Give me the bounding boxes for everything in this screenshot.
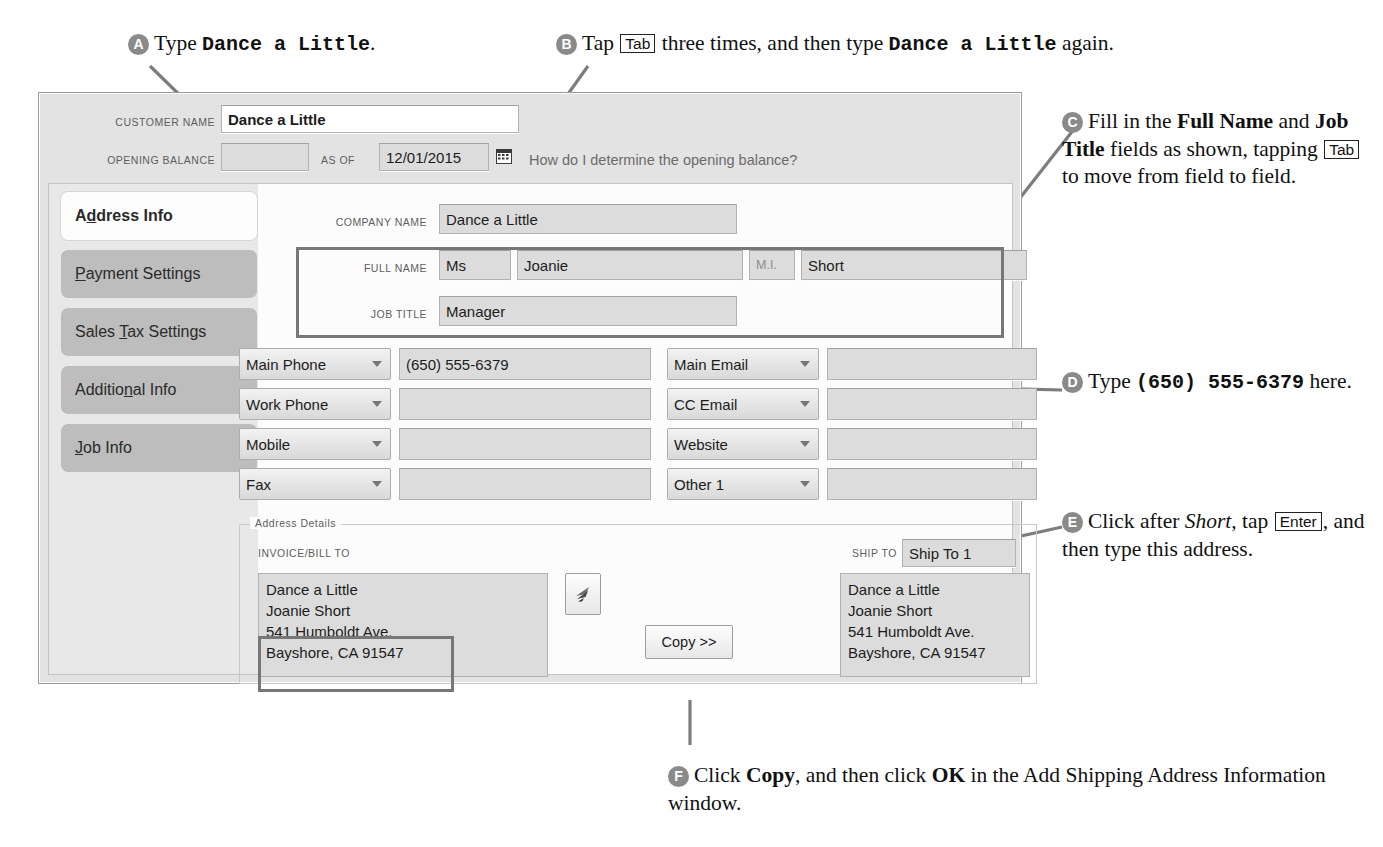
callout-e-text: Click after Short, tap Enter, and then t… — [1062, 509, 1365, 561]
callout-c-text: Fill in the Full Name and Job Title fiel… — [1062, 109, 1360, 188]
as-of-label: as of — [321, 147, 375, 173]
chevron-down-icon — [372, 401, 382, 407]
contact-value-input-0[interactable]: (650) 555-6379 — [399, 348, 651, 380]
email-type-label-0: Main Email — [674, 356, 748, 373]
bill-to-line-1: Joanie Short — [266, 600, 540, 621]
callout-bullet-b: B — [556, 34, 577, 55]
email-type-label-3: Other 1 — [674, 476, 724, 493]
callout-bullet-c: C — [1062, 112, 1083, 133]
callout-a-text: Type Dance a Little. — [154, 31, 375, 55]
callout-d-text: Type (650) 555-6379 here. — [1088, 369, 1352, 393]
key-tab-2: Tab — [1324, 140, 1359, 159]
customer-edit-window: Customer Name Dance a Little Opening Bal… — [38, 92, 1022, 684]
contact-type-select-0[interactable]: Main Phone — [239, 348, 391, 380]
contact-type-select-2[interactable]: Mobile — [239, 428, 391, 460]
callout-bullet-e: E — [1062, 512, 1083, 533]
ship-to-textarea[interactable]: Dance a Little Joanie Short 541 Humboldt… — [840, 573, 1030, 677]
sidebar-item-job-info[interactable]: Job Info — [61, 424, 257, 472]
sidebar-item-label-address-info: Address Info — [75, 207, 173, 225]
copy-button[interactable]: Copy >> — [645, 625, 733, 659]
email-type-select-1[interactable]: CC Email — [667, 388, 819, 420]
callout-f-text: Click Copy, and then click OK in the Add… — [668, 763, 1326, 815]
sidebar-item-address-info[interactable]: Address Info — [61, 192, 257, 240]
email-value-input-1[interactable] — [827, 388, 1037, 420]
callout-f: FClick Copy, and then click OK in the Ad… — [668, 762, 1328, 817]
edit-address-icon — [573, 584, 593, 604]
email-type-label-2: Website — [674, 436, 728, 453]
contact-type-select-3[interactable]: Fax — [239, 468, 391, 500]
callout-a: AType Dance a Little. — [128, 30, 548, 58]
chevron-down-icon — [800, 441, 810, 447]
sidebar-item-label-sales-tax-settings: Sales Tax Settings — [75, 323, 206, 341]
contact-value-input-2[interactable] — [399, 428, 651, 460]
email-value-input-2[interactable] — [827, 428, 1037, 460]
ship-to-line-2: 541 Humboldt Ave. — [848, 621, 1022, 642]
bill-to-line-0: Dance a Little — [266, 579, 540, 600]
email-type-select-2[interactable]: Website — [667, 428, 819, 460]
ship-to-label: Ship To — [852, 547, 897, 559]
customer-name-input[interactable]: Dance a Little — [221, 105, 519, 133]
email-value-input-0[interactable] — [827, 348, 1037, 380]
chevron-down-icon — [372, 441, 382, 447]
highlight-full-name-job-title — [296, 247, 1004, 338]
key-enter: Enter — [1275, 512, 1322, 531]
calendar-icon[interactable] — [495, 147, 513, 165]
chevron-down-icon — [372, 361, 382, 367]
contact-value-input-1[interactable] — [399, 388, 651, 420]
chevron-down-icon — [800, 401, 810, 407]
highlight-street-address — [258, 636, 454, 692]
ship-to-line-1: Joanie Short — [848, 600, 1022, 621]
opening-balance-help-link[interactable]: How do I determine the opening balance? — [529, 147, 797, 173]
sidebar-item-label-payment-settings: Payment Settings — [75, 265, 200, 283]
chevron-down-icon — [372, 481, 382, 487]
address-details-title: Address Details — [250, 517, 341, 529]
sidebar-item-label-job-info: Job Info — [75, 439, 132, 457]
sidebar-item-additional-info[interactable]: Additional Info — [61, 366, 257, 414]
callout-b-text: Tap Tab three times, and then type Dance… — [582, 31, 1114, 55]
callout-bullet-f: F — [668, 766, 689, 787]
email-value-input-3[interactable] — [827, 468, 1037, 500]
callout-c: CFill in the Full Name and Job Title fie… — [1062, 108, 1372, 191]
callout-bullet-a: A — [128, 34, 149, 55]
invoice-bill-to-label: Invoice/Bill To — [258, 547, 350, 559]
contact-type-label-3: Fax — [246, 476, 271, 493]
contact-type-label-2: Mobile — [246, 436, 290, 453]
callout-bullet-d: D — [1062, 372, 1083, 393]
email-type-select-0[interactable]: Main Email — [667, 348, 819, 380]
contact-type-select-1[interactable]: Work Phone — [239, 388, 391, 420]
callout-b: BTap Tab three times, and then type Danc… — [556, 30, 1376, 58]
email-type-label-1: CC Email — [674, 396, 737, 413]
key-tab: Tab — [620, 34, 655, 53]
company-name-label: Company Name — [271, 210, 427, 234]
chevron-down-icon — [800, 361, 810, 367]
contact-type-label-1: Work Phone — [246, 396, 328, 413]
opening-balance-label: Opening Balance — [59, 147, 215, 173]
sidebar-item-payment-settings[interactable]: Payment Settings — [61, 250, 257, 298]
ship-to-line-0: Dance a Little — [848, 579, 1022, 600]
edit-address-icon-button[interactable] — [565, 573, 601, 615]
company-name-input[interactable]: Dance a Little — [439, 204, 737, 234]
customer-name-label: Customer Name — [65, 109, 215, 135]
sidebar-item-label-additional-info: Additional Info — [75, 381, 176, 399]
callout-d: DType (650) 555-6379 here. — [1062, 368, 1372, 396]
chevron-down-icon — [800, 481, 810, 487]
as-of-date-input[interactable]: 12/01/2015 — [379, 143, 489, 171]
ship-to-line-3: Bayshore, CA 91547 — [848, 642, 1022, 663]
callout-e: EClick after Short, tap Enter, and then … — [1062, 508, 1374, 563]
contact-value-input-3[interactable] — [399, 468, 651, 500]
opening-balance-input[interactable] — [221, 143, 309, 171]
contact-type-label-0: Main Phone — [246, 356, 326, 373]
email-type-select-3[interactable]: Other 1 — [667, 468, 819, 500]
ship-to-selector[interactable]: Ship To 1 — [902, 539, 1016, 567]
sidebar-item-sales-tax-settings[interactable]: Sales Tax Settings — [61, 308, 257, 356]
